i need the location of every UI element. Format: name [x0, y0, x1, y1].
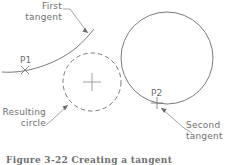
- first-tangent-arc: [2, 29, 94, 72]
- leader-resulting-circle: [46, 105, 68, 125]
- label-second-tangent-line2: tangent: [186, 131, 223, 142]
- p2-marker-icon: [151, 97, 163, 109]
- label-first-tangent: First tangent: [25, 1, 62, 23]
- label-resulting-circle-line1: Resulting: [2, 107, 46, 118]
- point-label-p2: P2: [151, 88, 162, 98]
- figure-caption: Figure 3-22 Creating a tangent: [6, 155, 172, 165]
- label-second-tangent: Second tangent: [186, 120, 223, 142]
- center-mark-icon: [83, 73, 101, 91]
- label-resulting-circle-line2: circle: [2, 118, 46, 129]
- label-first-tangent-line2: tangent: [25, 12, 62, 23]
- leader-first-tangent: [63, 9, 88, 33]
- label-first-tangent-line1: First: [25, 1, 62, 12]
- figure-container: First tangent Resulting circle Second ta…: [0, 0, 230, 165]
- point-label-p1: P1: [20, 55, 31, 65]
- large-circle: [121, 12, 213, 104]
- label-resulting-circle: Resulting circle: [2, 107, 46, 129]
- label-second-tangent-line1: Second: [186, 120, 223, 131]
